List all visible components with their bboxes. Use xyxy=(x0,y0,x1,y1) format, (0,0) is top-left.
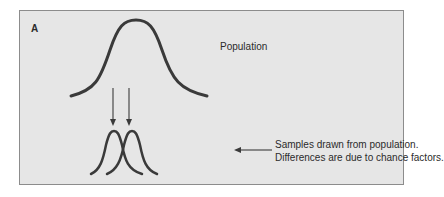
sampling-arrow-right xyxy=(126,88,132,126)
population-label: Population xyxy=(220,41,267,53)
samples-label-line2: Differences are due to chance factors. xyxy=(275,152,444,164)
samples-label-line1: Samples drawn from population. xyxy=(275,139,418,151)
population-curve xyxy=(71,20,207,96)
sampling-arrow-left xyxy=(110,88,116,126)
samples-pointer-arrow xyxy=(234,147,272,153)
